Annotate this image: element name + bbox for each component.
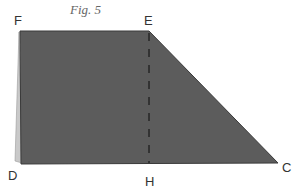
figure-caption: Fig. 5 bbox=[69, 2, 102, 17]
vertex-label-H: H bbox=[145, 174, 154, 189]
vertex-label-F: F bbox=[14, 13, 22, 28]
vertex-label-E: E bbox=[144, 13, 153, 28]
trapezoid-figure: Fig. 5 F E C D H bbox=[0, 0, 292, 196]
vertex-label-C: C bbox=[282, 160, 291, 175]
vertex-label-D: D bbox=[8, 168, 17, 183]
